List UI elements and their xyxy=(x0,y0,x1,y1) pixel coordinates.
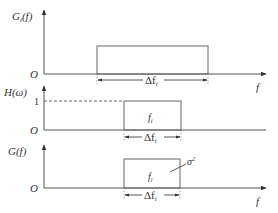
y-axis-label: Gi(f) xyxy=(12,10,33,24)
origin-label: O xyxy=(30,124,38,136)
center-frequency-label: fi xyxy=(148,171,153,183)
bandwidth-label: Δfi xyxy=(145,74,158,88)
origin-label: O xyxy=(30,68,38,80)
origin-label: O xyxy=(30,182,38,194)
panel-filter-response: H(ω) 1 O fi Δfi xyxy=(3,86,266,145)
y-axis-label: G(f) xyxy=(8,145,27,158)
center-frequency-label: fi xyxy=(148,112,153,124)
output-spectrum-band xyxy=(124,159,180,188)
panel-input-spectrum: Gi(f) O f Δfi xyxy=(12,10,266,93)
variance-annotation: σ2 xyxy=(187,155,196,167)
x-axis-label: f xyxy=(256,81,261,93)
filter-passband xyxy=(124,101,181,130)
spectrum-diagram: Gi(f) O f Δfi H(ω) 1 O fi Δfi G(f) O f f… xyxy=(0,0,278,213)
y-axis-label: H(ω) xyxy=(3,86,27,99)
panel-output-spectrum: G(f) O f fi σ2 Δfi xyxy=(8,145,266,207)
input-spectrum-band xyxy=(97,46,208,74)
x-axis-label: f xyxy=(256,195,261,207)
annotation-leader-line xyxy=(170,164,186,172)
level-one-label: 1 xyxy=(34,96,39,107)
bandwidth-label: Δfi xyxy=(144,189,157,203)
bandwidth-label: Δfi xyxy=(144,131,157,145)
